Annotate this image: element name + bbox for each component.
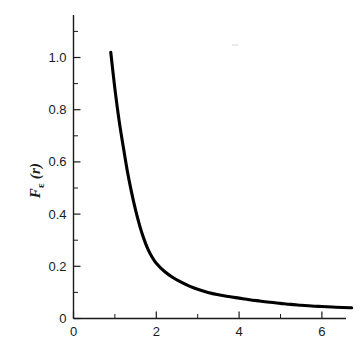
data-curve-f-epsilon <box>111 52 352 308</box>
y-axis-ticks <box>74 31 81 318</box>
figure-panel: 00.20.40.60.81.0 0246 Fε (r) <box>0 0 361 350</box>
y-tick-label: 0 <box>59 311 66 326</box>
y-tick-label: 1.0 <box>48 50 66 65</box>
x-axis-ticks <box>74 312 322 319</box>
y-axis-label-argument: (r) <box>27 162 43 182</box>
scan-artifact-speck <box>232 44 238 46</box>
data-series-group <box>111 52 352 308</box>
y-tick-label: 0.2 <box>48 259 66 274</box>
y-axis-label-base: F <box>27 188 43 198</box>
y-axis-label-container: Fε (r) <box>14 150 60 210</box>
x-tick-label: 0 <box>70 324 77 339</box>
x-tick-label: 6 <box>318 324 325 339</box>
y-tick-label: 0.8 <box>48 102 66 117</box>
x-tick-label: 2 <box>153 324 160 339</box>
x-tick-label: 4 <box>235 324 242 339</box>
y-axis-label: Fε (r) <box>27 162 46 198</box>
x-axis-tick-labels: 0246 <box>70 324 326 339</box>
y-axis-label-subscript: ε <box>34 183 46 188</box>
axis-lines <box>74 15 347 319</box>
